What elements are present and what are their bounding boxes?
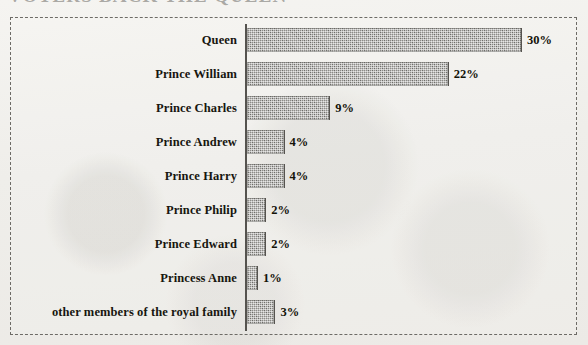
- bar: [247, 232, 266, 256]
- bar-row: Princess Anne1%: [11, 261, 576, 295]
- bar-chart: Queen30%Prince William22%Prince Charles9…: [11, 18, 576, 334]
- bar-value-label: 4%: [290, 135, 309, 150]
- bar: [247, 62, 449, 86]
- bar-row: Queen30%: [11, 23, 576, 57]
- bar-category-label: Queen: [15, 33, 241, 48]
- bar-row: Prince Philip2%: [11, 193, 576, 227]
- bar-value-label: 3%: [280, 305, 299, 320]
- bar-category-label: Prince Charles: [15, 101, 241, 116]
- bar: [247, 300, 275, 324]
- bar-category-label: Prince Edward: [15, 237, 241, 252]
- bar-value-label: 2%: [271, 237, 290, 252]
- bar-value-label: 22%: [454, 67, 479, 82]
- bar-and-value: 2%: [247, 193, 290, 227]
- bar-and-value: 3%: [247, 295, 299, 329]
- bar: [247, 96, 330, 120]
- bar-row: Prince William22%: [11, 57, 576, 91]
- bar-row: Prince Charles9%: [11, 91, 576, 125]
- bar-and-value: 1%: [247, 261, 282, 295]
- clipped-heading-text: VOTERS BACK THE QUEEN: [8, 0, 287, 7]
- bar-category-label: Prince Harry: [15, 169, 241, 184]
- bar-category-label: Prince Andrew: [15, 135, 241, 150]
- bar-category-label: Prince William: [15, 67, 241, 82]
- bar-and-value: 4%: [247, 159, 308, 193]
- bar-row: other members of the royal family3%: [11, 295, 576, 329]
- bar-row: Prince Edward2%: [11, 227, 576, 261]
- bar-and-value: 9%: [247, 91, 354, 125]
- bar-and-value: 22%: [247, 57, 479, 91]
- bar: [247, 130, 285, 154]
- bar-value-label: 30%: [527, 33, 552, 48]
- bar-category-label: other members of the royal family: [15, 305, 241, 320]
- bar: [247, 164, 285, 188]
- bar-row: Prince Andrew4%: [11, 125, 576, 159]
- bar-and-value: 30%: [247, 23, 552, 57]
- bar-and-value: 2%: [247, 227, 290, 261]
- bar-and-value: 4%: [247, 125, 308, 159]
- bar: [247, 28, 522, 52]
- clipped-heading-sliver: VOTERS BACK THE QUEEN: [0, 0, 588, 11]
- bar-category-label: Princess Anne: [15, 271, 241, 286]
- bar-value-label: 1%: [263, 271, 282, 286]
- bar-value-label: 4%: [290, 169, 309, 184]
- bar-category-label: Prince Philip: [15, 203, 241, 218]
- bar: [247, 266, 258, 290]
- chart-frame: Queen30%Prince William22%Prince Charles9…: [10, 17, 577, 335]
- bar-value-label: 9%: [335, 101, 354, 116]
- bar: [247, 198, 266, 222]
- bar-value-label: 2%: [271, 203, 290, 218]
- bar-row: Prince Harry4%: [11, 159, 576, 193]
